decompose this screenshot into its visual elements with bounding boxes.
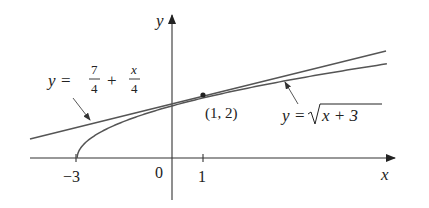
tangent-line [30,51,386,139]
svg-text:+: + [107,71,117,90]
svg-text:x: x [130,62,137,77]
origin-label: 0 [155,164,163,181]
svg-text:7: 7 [91,62,98,77]
tangent-line-figure: y x 0 −3 1 (1, 2) y = 7 4 + x 4 y = x + … [0,0,429,208]
x-axis-label: x [380,165,389,184]
tangent-equation-label: y = 7 4 + x 4 [46,62,140,96]
tick-label-neg3: −3 [63,168,80,185]
svg-text:x + 3: x + 3 [321,106,358,125]
point-label: (1, 2) [205,105,238,122]
svg-text:=: = [295,106,305,125]
tangent-label-leader [73,98,90,120]
curve-label-leader [285,82,298,104]
tick-label-1: 1 [198,168,206,185]
curve-equation-label: y = x + 3 [280,104,382,125]
svg-text:=: = [61,71,71,90]
tangent-point [200,92,205,97]
svg-text:4: 4 [91,81,98,96]
y-axis-label: y [154,11,164,30]
svg-text:y: y [280,106,290,125]
svg-text:y: y [46,71,56,90]
svg-text:4: 4 [131,81,138,96]
